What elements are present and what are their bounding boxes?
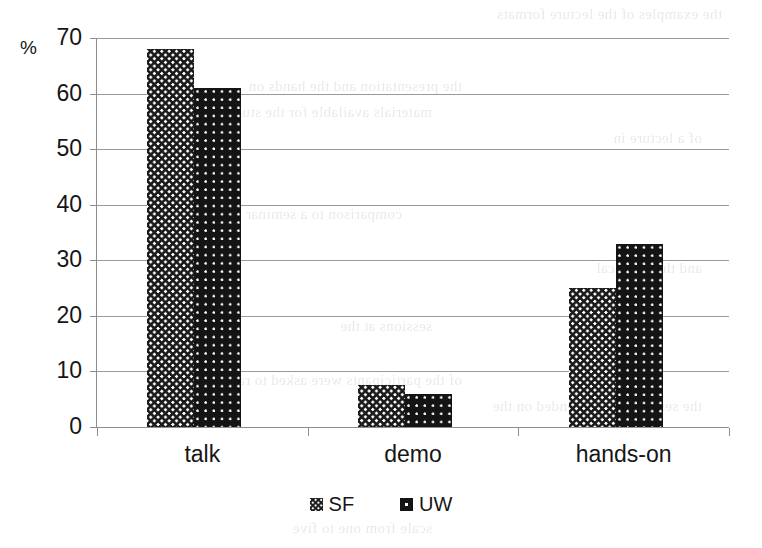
- y-axis-tick: [90, 316, 97, 317]
- y-axis-tick-label: 20: [22, 304, 82, 327]
- chart-legend: SFUW: [0, 494, 762, 514]
- x-axis-tick: [729, 428, 730, 436]
- dotted-swatch-icon: [400, 498, 413, 511]
- y-axis-tick-label: 60: [22, 82, 82, 105]
- y-axis-tick: [90, 38, 97, 39]
- y-axis-tick: [90, 94, 97, 95]
- grouped-bar-chart: % 010203040506070 talkdemohands-on SFUW: [0, 0, 762, 548]
- y-axis-tick: [90, 260, 97, 261]
- y-axis-tick: [90, 427, 97, 428]
- y-axis-tick-label: 50: [22, 137, 82, 160]
- y-axis-tick-label: 40: [22, 193, 82, 216]
- x-axis-label-hands-on: hands-on: [518, 442, 729, 467]
- plot-area: [97, 38, 729, 427]
- legend-entry-UW[interactable]: UW: [400, 494, 452, 514]
- checkered-swatch-icon: [310, 498, 323, 511]
- bar-talk-UW: [194, 88, 241, 427]
- legend-entry-SF[interactable]: SF: [310, 494, 355, 514]
- x-axis-tick: [518, 428, 519, 436]
- legend-label-SF: SF: [329, 494, 355, 514]
- gridline: [97, 38, 729, 39]
- y-axis-tick: [90, 371, 97, 372]
- bar-hands-on-SF: [569, 288, 616, 427]
- x-axis-tick: [308, 428, 309, 436]
- gridline: [97, 427, 729, 428]
- y-axis-tick-label: 70: [22, 26, 82, 49]
- x-axis-label-talk: talk: [97, 442, 308, 467]
- y-axis-tick: [90, 149, 97, 150]
- x-axis-label-demo: demo: [308, 442, 519, 467]
- bar-demo-UW: [405, 394, 452, 427]
- bar-demo-SF: [358, 385, 405, 427]
- y-axis-tick-label: 30: [22, 248, 82, 271]
- bar-talk-SF: [147, 49, 194, 427]
- y-axis-tick-label: 10: [22, 359, 82, 382]
- bar-hands-on-UW: [616, 244, 663, 427]
- y-axis-tick: [90, 205, 97, 206]
- x-axis-tick: [97, 428, 98, 436]
- y-axis-tick-label: 0: [22, 415, 82, 438]
- legend-label-UW: UW: [419, 494, 452, 514]
